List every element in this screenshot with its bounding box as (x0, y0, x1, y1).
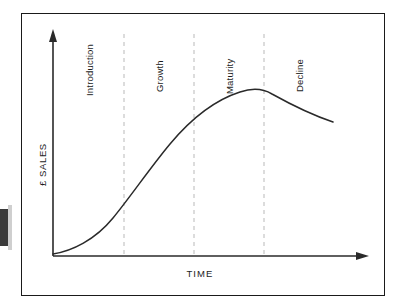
stage-label-growth: Growth (154, 60, 165, 92)
stage-label-introduction: Introduction (84, 44, 95, 96)
product-life-cycle-chart (0, 0, 400, 308)
x-axis-arrowhead (356, 252, 369, 260)
stage-label-maturity: Maturity (224, 59, 235, 94)
y-axis-label: £ SALES (37, 143, 48, 186)
y-axis-arrowhead (49, 29, 57, 42)
sales-curve (53, 89, 333, 254)
stage-label-decline: Decline (294, 59, 305, 92)
x-axis-label: TIME (0, 268, 400, 279)
